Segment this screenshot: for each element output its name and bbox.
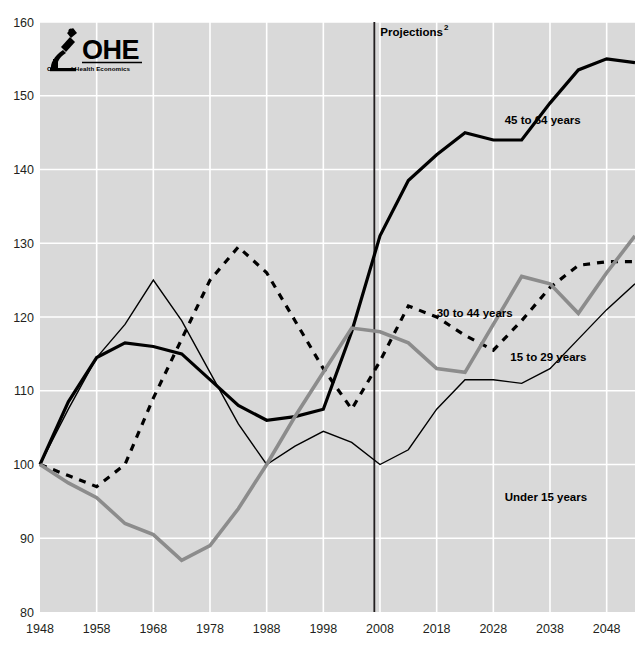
ytick-label-160: 160 bbox=[13, 16, 34, 30]
xtick-label-1978: 1978 bbox=[196, 622, 224, 636]
xtick-label-2008: 2008 bbox=[366, 622, 394, 636]
xtick-label-2028: 2028 bbox=[479, 622, 507, 636]
ytick-label-140: 140 bbox=[13, 163, 34, 177]
projections-superscript: 2 bbox=[444, 23, 449, 32]
population-index-line-chart: 8090100110120130140150160 19481958196819… bbox=[0, 0, 635, 659]
ytick-label-120: 120 bbox=[13, 311, 34, 325]
series-label-under-15-years: Under 15 years bbox=[505, 491, 587, 503]
xtick-label-1998: 1998 bbox=[309, 622, 337, 636]
projections-label: Projections bbox=[380, 26, 443, 38]
series-label-45-to-64-years: 45 to 64 years bbox=[505, 114, 581, 126]
xtick-label-1968: 1968 bbox=[139, 622, 167, 636]
xtick-label-1988: 1988 bbox=[253, 622, 281, 636]
ytick-label-110: 110 bbox=[14, 384, 34, 398]
ytick-label-150: 150 bbox=[13, 89, 34, 103]
xtick-label-2018: 2018 bbox=[423, 622, 451, 636]
series-label-15-to-29-years: 15 to 29 years bbox=[510, 351, 586, 363]
logo-subtitle: Office of Health Economics bbox=[47, 65, 131, 72]
ytick-label-80: 80 bbox=[20, 606, 34, 620]
xtick-label-2048: 2048 bbox=[593, 622, 621, 636]
ytick-label-130: 130 bbox=[13, 237, 34, 251]
ytick-label-90: 90 bbox=[20, 532, 34, 546]
y-axis-tick-labels: 8090100110120130140150160 bbox=[13, 16, 34, 620]
series-label-30-to-44-years: 30 to 44 years bbox=[437, 307, 513, 319]
projections-annotation: Projections 2 bbox=[380, 23, 449, 38]
xtick-label-1948: 1948 bbox=[26, 622, 54, 636]
ytick-label-100: 100 bbox=[13, 458, 34, 472]
chart-container: 8090100110120130140150160 19481958196819… bbox=[0, 0, 635, 659]
logo-wordmark: OHE bbox=[82, 35, 139, 65]
xtick-label-1958: 1958 bbox=[83, 622, 111, 636]
xtick-label-2038: 2038 bbox=[536, 622, 564, 636]
x-axis-tick-labels: 1948195819681978198819982008201820282038… bbox=[26, 622, 621, 636]
